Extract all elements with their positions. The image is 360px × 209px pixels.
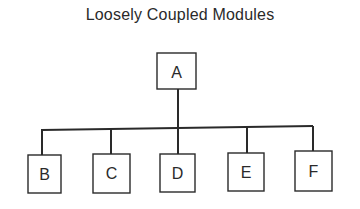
module-label-d: D xyxy=(172,165,184,182)
module-label-c: C xyxy=(106,165,118,182)
module-label-b: B xyxy=(39,166,50,183)
module-diagram: A B C D E F xyxy=(0,0,360,209)
module-label-a: A xyxy=(171,64,182,81)
module-label-e: E xyxy=(241,164,252,181)
module-label-f: F xyxy=(309,163,319,180)
